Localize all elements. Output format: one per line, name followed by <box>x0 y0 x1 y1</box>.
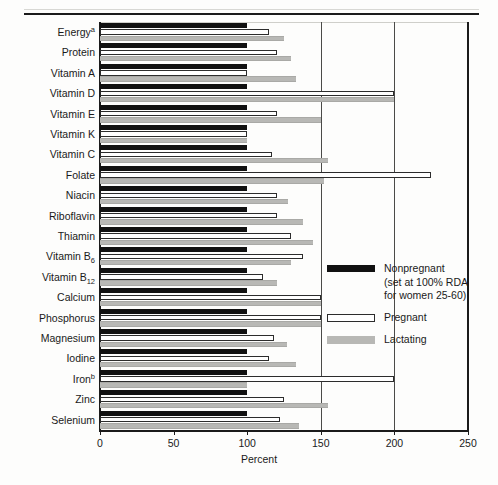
bar-pregnant <box>100 29 269 34</box>
bar-nonpregnant <box>100 411 247 416</box>
bar-nonpregnant <box>100 23 247 28</box>
y-axis-category-label: Vitamin K <box>3 124 95 144</box>
x-axis-title: Percent <box>0 453 498 465</box>
chart-row: Riboflavin <box>0 206 498 226</box>
x-tick-100 <box>247 430 248 435</box>
footnote-marker: a <box>91 25 95 34</box>
bar-lactating <box>100 301 321 306</box>
y-axis-category-label: Vitamin B12 <box>3 267 95 287</box>
x-tick-label-250: 250 <box>459 437 477 449</box>
y-axis-category-label: Phosphorus <box>3 308 95 328</box>
y-axis-category-label: Energya <box>3 22 95 42</box>
bar-lactating <box>100 260 291 265</box>
y-axis-category-label: Niacin <box>3 185 95 205</box>
legend-swatch-pregnant-icon <box>327 314 375 322</box>
bar-lactating <box>100 240 313 245</box>
bar-pregnant <box>100 335 274 340</box>
y-axis-category-label: Selenium <box>3 410 95 430</box>
y-axis-category-label: Thiamin <box>3 226 95 246</box>
chart-row: Folate <box>0 165 498 185</box>
bar-lactating <box>100 403 328 408</box>
bar-nonpregnant <box>100 247 247 252</box>
chart-row: Selenium <box>0 410 498 430</box>
bar-lactating <box>100 36 284 41</box>
bar-pregnant <box>100 254 303 259</box>
bar-pregnant <box>100 356 269 361</box>
legend-sublabel-nonpregnant-line2: for women 25-60) <box>384 289 467 303</box>
chart-row: Vitamin C <box>0 144 498 164</box>
bar-lactating <box>100 382 247 387</box>
chart-row: Energya <box>0 22 498 42</box>
chart-row: Thiamin <box>0 226 498 246</box>
bar-pregnant <box>100 172 431 177</box>
chart-legend: Nonpregnant (set at 100% RDA for women 2… <box>327 262 467 350</box>
y-axis-category-label: Ironb <box>3 369 95 389</box>
bar-lactating <box>100 138 247 143</box>
y-axis-category-label: Vitamin A <box>3 63 95 83</box>
subscript-marker: 6 <box>91 256 95 265</box>
x-axis-line <box>99 430 469 432</box>
x-tick-label-100: 100 <box>238 437 256 449</box>
chart-row: Protein <box>0 42 498 62</box>
x-tick-label-0: 0 <box>97 437 103 449</box>
y-axis-category-label: Magnesium <box>3 328 95 348</box>
y-axis-category-label: Calcium <box>3 287 95 307</box>
bar-lactating <box>100 321 321 326</box>
horizontal-bar-chart: EnergyaProteinVitamin AVitamin DVitamin … <box>0 0 498 485</box>
bar-pregnant <box>100 131 247 136</box>
subscript-marker: 12 <box>87 277 95 286</box>
bar-nonpregnant <box>100 166 247 171</box>
bar-pregnant <box>100 152 272 157</box>
x-tick-250 <box>468 430 469 435</box>
bar-lactating <box>100 117 321 122</box>
legend-item-pregnant: Pregnant <box>327 311 467 325</box>
legend-swatch-nonpregnant-icon <box>327 265 375 272</box>
x-tick-0 <box>100 430 101 435</box>
bar-pregnant <box>100 376 394 381</box>
chart-row: Vitamin K <box>0 124 498 144</box>
bar-lactating <box>100 199 288 204</box>
chart-row: Iodine <box>0 348 498 368</box>
bar-lactating <box>100 178 324 183</box>
bar-lactating <box>100 280 277 285</box>
bar-pregnant <box>100 70 247 75</box>
legend-sublabel-nonpregnant-line1: (set at 100% RDA <box>384 276 467 290</box>
footnote-marker: b <box>91 371 95 380</box>
bar-nonpregnant <box>100 105 247 110</box>
legend-item-lactating: Lactating <box>327 333 467 347</box>
bar-pregnant <box>100 397 284 402</box>
bar-nonpregnant <box>100 329 247 334</box>
y-axis-category-label: Riboflavin <box>3 206 95 226</box>
bar-lactating <box>100 219 303 224</box>
bar-pregnant <box>100 50 277 55</box>
y-axis-category-label: Protein <box>3 42 95 62</box>
bar-lactating <box>100 342 287 347</box>
legend-item-nonpregnant: Nonpregnant (set at 100% RDA for women 2… <box>327 262 467 303</box>
x-tick-label-50: 50 <box>168 437 180 449</box>
bar-lactating <box>100 76 296 81</box>
legend-swatch-lactating-icon <box>327 336 375 344</box>
chart-row: Vitamin A <box>0 63 498 83</box>
bar-nonpregnant <box>100 309 247 314</box>
bar-pregnant <box>100 274 263 279</box>
bar-nonpregnant <box>100 349 247 354</box>
bar-lactating <box>100 362 296 367</box>
y-axis-category-label: Zinc <box>3 389 95 409</box>
bar-lactating <box>100 423 299 428</box>
bar-pregnant <box>100 417 280 422</box>
bar-nonpregnant <box>100 125 247 130</box>
bar-nonpregnant <box>100 43 247 48</box>
bar-nonpregnant <box>100 390 247 395</box>
y-axis-category-label: Vitamin C <box>3 144 95 164</box>
bar-nonpregnant <box>100 186 247 191</box>
chart-row: Zinc <box>0 389 498 409</box>
y-axis-category-label: Vitamin D <box>3 83 95 103</box>
bar-nonpregnant <box>100 64 247 69</box>
y-axis-category-label: Vitamin E <box>3 104 95 124</box>
chart-row: Ironb <box>0 369 498 389</box>
bar-pregnant <box>100 233 291 238</box>
bar-nonpregnant <box>100 145 247 150</box>
x-tick-50 <box>174 430 175 435</box>
x-tick-200 <box>394 430 395 435</box>
bar-pregnant <box>100 111 277 116</box>
